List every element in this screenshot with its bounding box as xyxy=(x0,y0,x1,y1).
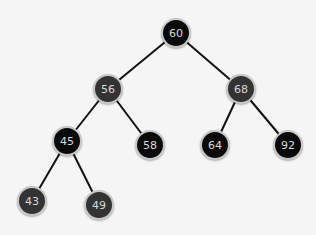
tree-node: 43 xyxy=(17,186,47,216)
node-value: 92 xyxy=(281,139,295,152)
tree-node: 68 xyxy=(226,74,256,104)
tree-node: 64 xyxy=(200,130,230,160)
node-value: 49 xyxy=(92,199,106,212)
node-value: 43 xyxy=(25,195,39,208)
tree-node: 49 xyxy=(84,190,114,220)
tree-edges xyxy=(0,0,316,235)
node-value: 64 xyxy=(208,139,222,152)
tree-node: 92 xyxy=(273,130,303,160)
tree-node: 45 xyxy=(52,126,82,156)
tree-node: 58 xyxy=(135,130,165,160)
tree-node: 60 xyxy=(161,18,191,48)
node-value: 45 xyxy=(60,135,74,148)
tree-node: 56 xyxy=(93,74,123,104)
node-value: 56 xyxy=(101,83,115,96)
node-value: 68 xyxy=(234,83,248,96)
node-value: 58 xyxy=(143,139,157,152)
node-value: 60 xyxy=(169,27,183,40)
